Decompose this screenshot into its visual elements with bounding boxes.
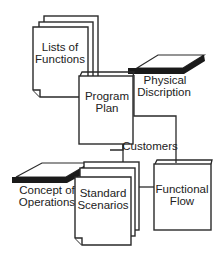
- standard-scenarios-node: Standard Scenarios: [75, 162, 139, 245]
- program-plan-label-2: Plan: [95, 102, 118, 114]
- standard-scenarios-label-1: Standard: [80, 187, 127, 199]
- standard-scenarios-label-2: Scenarios: [77, 199, 128, 211]
- program-plan-label-1: Program: [85, 90, 129, 102]
- physical-discription-label-1: Physical: [144, 74, 187, 86]
- lists-of-functions-label-1: Lists of: [42, 41, 79, 53]
- connector-program-plan-customers: [110, 144, 123, 150]
- functional-flow-label-2: Flow: [170, 195, 195, 207]
- physical-discription-node: Physical Discription: [128, 55, 205, 98]
- functional-flow-node: Functional Flow: [154, 160, 212, 230]
- program-plan-node: Program Plan: [79, 72, 134, 144]
- concept-of-operations-label-1: Concept of: [19, 184, 75, 196]
- documentation-diagram: Lists of Functions Physical Discription …: [0, 0, 222, 257]
- customers-label: Customers: [122, 140, 178, 152]
- functional-flow-label-1: Functional: [155, 183, 208, 195]
- dog-ear-icon: [75, 238, 82, 245]
- physical-discription-label-2: Discription: [137, 86, 191, 98]
- concept-of-operations-label-2: Operations: [19, 196, 76, 208]
- lists-of-functions-label-2: Functions: [35, 53, 85, 65]
